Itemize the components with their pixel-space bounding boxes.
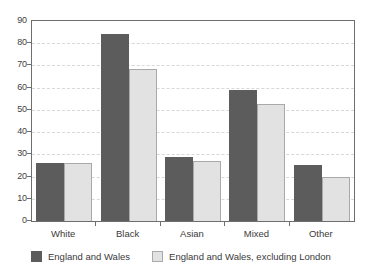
x-tick-label: Other (281, 228, 361, 239)
x-tick-mark (160, 222, 161, 226)
legend-label: England and Wales (48, 251, 130, 262)
bar-group (294, 21, 350, 221)
bar (229, 90, 257, 221)
bar (193, 161, 221, 221)
y-tick-label: 70 (3, 60, 27, 69)
bar-chart: 0102030405060708090 WhiteBlackAsianMixed… (0, 0, 369, 277)
y-tick-label: 10 (3, 194, 27, 203)
chart-legend: England and WalesEngland and Wales, excl… (31, 251, 331, 262)
y-tick-label: 40 (3, 127, 27, 136)
y-tick-label: 0 (3, 216, 27, 225)
light-swatch (152, 251, 163, 262)
x-tick-mark (289, 222, 290, 226)
legend-label: England and Wales, excluding London (169, 251, 331, 262)
legend-entry: England and Wales, excluding London (152, 251, 331, 262)
bar-group (165, 21, 221, 221)
bar-group (36, 21, 92, 221)
dark-swatch (31, 251, 42, 262)
legend-entry: England and Wales (31, 251, 130, 262)
bar-group (101, 21, 157, 221)
bar (165, 157, 193, 221)
bar (36, 163, 64, 221)
y-tick-label: 90 (3, 16, 27, 25)
y-tick-label: 50 (3, 105, 27, 114)
plot-area (31, 20, 355, 222)
bar (64, 163, 92, 221)
bar (101, 34, 129, 221)
bar (322, 177, 350, 221)
x-tick-mark (224, 222, 225, 226)
y-tick-label: 30 (3, 149, 27, 158)
bar (257, 104, 285, 221)
bar (294, 165, 322, 221)
y-tick-label: 60 (3, 83, 27, 92)
y-tick-label: 80 (3, 38, 27, 47)
bar-group (229, 21, 285, 221)
bar (129, 69, 157, 221)
y-tick-label: 20 (3, 172, 27, 181)
x-tick-mark (95, 222, 96, 226)
